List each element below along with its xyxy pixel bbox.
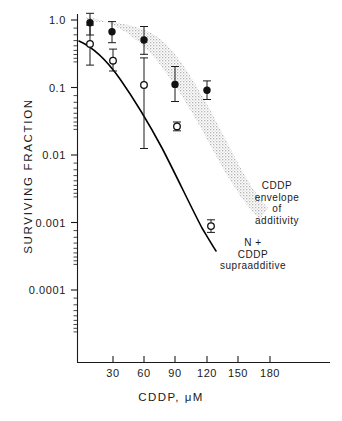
ytick-label-1: 1.0 (14, 14, 66, 26)
envelope-label-line-1: CDDP (255, 180, 300, 192)
xtick-label-4: 120 (197, 367, 217, 379)
xtick-label-2: 60 (137, 367, 150, 379)
supra-label-line-2: CDDP (220, 249, 286, 261)
envelope-label-line-2: envelope (255, 192, 300, 204)
x-axis-title: CDDP, μM (0, 391, 342, 403)
supra-label-line-3: supraadditive (220, 260, 286, 272)
envelope-of-additivity-label: CDDP envelope of additivity (255, 180, 300, 226)
markers-supraadditive (87, 41, 215, 230)
envelope-label-line-3: of (255, 203, 300, 215)
y-axis-title: SURVIVING FRACTION (22, 76, 34, 276)
xtick-label-1: 30 (106, 367, 119, 379)
ytick-label-5: 0.0001 (10, 284, 66, 296)
supra-label-line-1: N + (220, 237, 286, 249)
figure-surviving-fraction-vs-cddp: 1.0 0.1 0.01 0.001 0.0001 30 60 90 120 1… (0, 0, 342, 421)
xtick-label-3: 90 (168, 367, 181, 379)
xtick-label-6: 180 (260, 367, 280, 379)
supraadditive-curve (79, 41, 216, 251)
supraadditive-label: N + CDDP supraadditive (220, 237, 286, 272)
envelope-label-line-4: additivity (255, 215, 300, 227)
xtick-label-5: 150 (228, 367, 248, 379)
envelope-of-additivity-band (86, 17, 268, 219)
